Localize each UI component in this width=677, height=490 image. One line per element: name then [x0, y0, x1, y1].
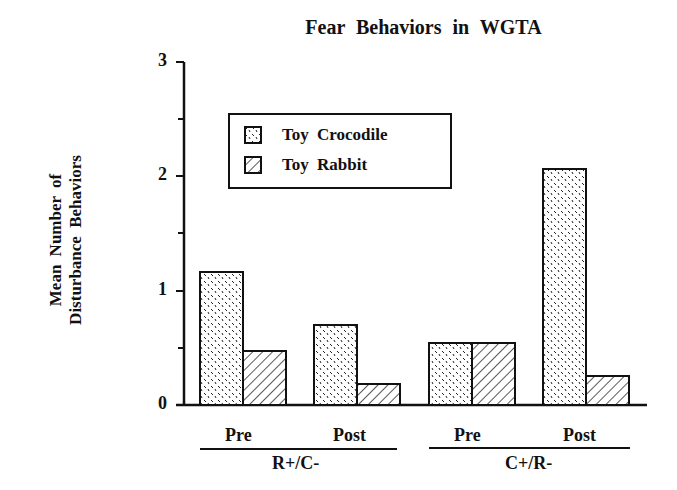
x-label-cr-post: Post: [563, 425, 596, 446]
bar-crocodile-cr-post: [543, 169, 586, 405]
group-label-cr: C+/R-: [505, 453, 552, 474]
plot-area: [0, 0, 677, 490]
bar-crocodile-rc-pre: [200, 272, 243, 405]
legend-item-rabbit: Toy Rabbit: [244, 155, 367, 175]
x-label-rc-pre: Pre: [225, 425, 252, 446]
bar-rabbit-cr-post: [586, 376, 629, 405]
legend-item-crocodile: Toy Crocodile: [244, 125, 388, 145]
y-tick-3: 3: [158, 50, 167, 71]
y-axis: [176, 62, 184, 405]
y-tick-1: 1: [158, 279, 167, 300]
x-label-rc-post: Post: [333, 425, 366, 446]
bar-rabbit-rc-pre: [243, 351, 286, 405]
bars: [200, 169, 629, 405]
group-label-rc: R+/C-: [272, 453, 319, 474]
legend: Toy Crocodile Toy Rabbit: [228, 113, 452, 189]
rabbit-pattern-swatch-icon: [244, 156, 262, 174]
x-label-cr-pre: Pre: [454, 425, 481, 446]
bar-rabbit-rc-post: [357, 384, 400, 405]
chart-root: Fear Behaviors in WGTA Mean Number of Di…: [0, 0, 677, 490]
y-tick-2: 2: [158, 164, 167, 185]
y-tick-0: 0: [158, 393, 167, 414]
legend-label-rabbit: Toy Rabbit: [282, 155, 367, 175]
bar-rabbit-cr-pre: [472, 343, 515, 405]
crocodile-pattern-swatch-icon: [244, 126, 262, 144]
legend-label-crocodile: Toy Crocodile: [282, 125, 388, 145]
bar-crocodile-rc-post: [314, 325, 357, 405]
bar-crocodile-cr-pre: [429, 343, 472, 405]
